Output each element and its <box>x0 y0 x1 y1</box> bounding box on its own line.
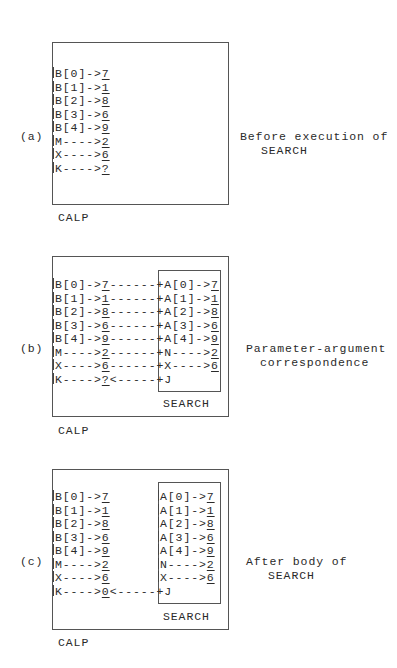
panel-label: (a) <box>20 130 43 143</box>
var-row: B[4]->9------+A[4]->9 <box>53 332 219 345</box>
var-row: B[4]->9 <box>53 544 110 557</box>
var-row: B[1]->1 <box>53 504 110 517</box>
calp-label: CALP <box>58 211 89 224</box>
var-row: B[3]->6 <box>53 108 110 121</box>
var-row: K---->?<-----+J <box>53 373 172 386</box>
search-label: SEARCH <box>163 610 210 623</box>
var-row: B[3]->6------+A[3]->6 <box>53 319 219 332</box>
calp-label: CALP <box>58 636 89 649</box>
var-row: M---->2------+N---->2 <box>53 346 219 359</box>
var-row: X---->6 <box>53 148 110 161</box>
var-row: B[1]->1 <box>53 81 110 94</box>
param-row: X---->6 <box>158 571 215 584</box>
search-label: SEARCH <box>163 397 210 410</box>
var-row: B[0]->7 <box>53 490 110 503</box>
var-row: K---->0<-----+J <box>53 585 172 598</box>
panel-label: (b) <box>20 342 43 355</box>
var-row: B[0]->7 <box>53 67 110 80</box>
var-row: B[1]->1------+A[1]->1 <box>53 292 219 305</box>
var-row: B[2]->8 <box>53 517 110 530</box>
var-row: M---->2 <box>53 558 110 571</box>
param-row: A[3]->6 <box>158 531 215 544</box>
var-row: X---->6 <box>53 571 110 584</box>
panel-label: (c) <box>20 555 43 568</box>
panel-caption: Parameter-argument correspondence <box>246 342 386 370</box>
var-row: K---->? <box>53 162 110 175</box>
param-row: A[4]->9 <box>158 544 215 557</box>
var-row: B[3]->6 <box>53 531 110 544</box>
var-row: X---->6------+X---->6 <box>53 359 219 372</box>
var-row: B[2]->8------+A[2]->8 <box>53 305 219 318</box>
var-row: B[2]->8 <box>53 94 110 107</box>
param-row: A[2]->8 <box>158 517 215 530</box>
var-row: B[4]->9 <box>53 121 110 134</box>
var-row: B[0]->7------+A[0]->7 <box>53 278 219 291</box>
panel-caption: After body of SEARCH <box>246 555 347 583</box>
panel-caption: Before execution of SEARCH <box>240 130 388 158</box>
var-row: M---->2 <box>53 135 110 148</box>
calp-label: CALP <box>58 424 89 437</box>
param-row: A[0]->7 <box>158 490 215 503</box>
param-row: N---->2 <box>158 558 215 571</box>
param-row: A[1]->1 <box>158 504 215 517</box>
